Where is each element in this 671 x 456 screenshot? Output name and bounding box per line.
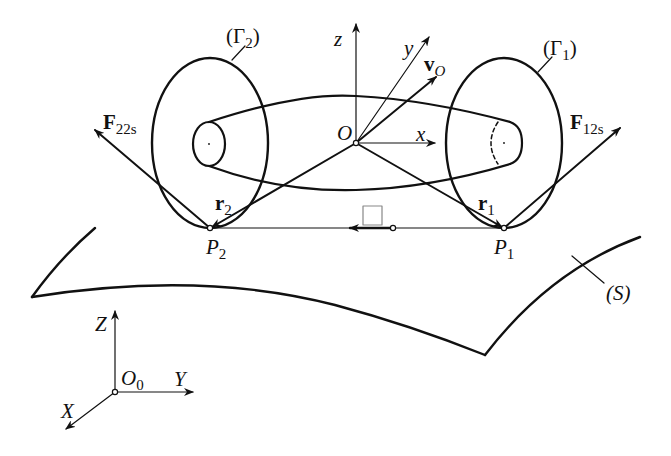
point-p1 <box>501 225 506 230</box>
point-p2 <box>207 225 212 230</box>
label-fixed-z: Z <box>95 314 107 335</box>
label-gamma1: (Γ1) <box>543 38 577 63</box>
contact-line-midpoint <box>390 225 395 230</box>
r2-vector <box>212 143 356 227</box>
diagram-drawing <box>0 0 671 456</box>
label-surface-s: (S) <box>606 283 631 304</box>
mechanics-diagram: (Γ2) (Γ1) z y x O vO F22s F12s r2 r1 P2 … <box>0 0 671 456</box>
body-top-contour <box>209 96 510 122</box>
contact-square-symbol <box>363 206 382 225</box>
label-x-axis: x <box>416 124 425 145</box>
surface-s <box>32 228 95 297</box>
label-y-axis: y <box>404 38 413 59</box>
label-r2: r2 <box>215 193 232 218</box>
label-r1: r1 <box>478 193 495 218</box>
label-p1: P1 <box>494 237 514 262</box>
wheel-gamma2 <box>152 58 268 228</box>
label-z-axis: z <box>334 29 342 50</box>
label-force-f22s: F22s <box>103 112 137 137</box>
point-o0 <box>112 389 117 394</box>
label-force-f12s: F12s <box>570 112 604 137</box>
label-fixed-x: X <box>61 401 74 422</box>
label-origin-o0: O0 <box>121 368 144 393</box>
right-hub-center-dot <box>503 142 505 144</box>
right-hub-cap <box>510 122 522 164</box>
label-velocity-vo: vO <box>424 54 445 79</box>
label-p2: P2 <box>206 237 226 262</box>
label-gamma2: (Γ2) <box>226 26 260 51</box>
point-o <box>353 140 358 145</box>
label-fixed-y: Y <box>174 369 186 390</box>
right-hub-hidden-arc <box>491 122 498 164</box>
body-bottom-contour <box>209 164 510 190</box>
label-origin-o: O <box>337 123 352 144</box>
left-hub-center-dot <box>208 143 210 145</box>
